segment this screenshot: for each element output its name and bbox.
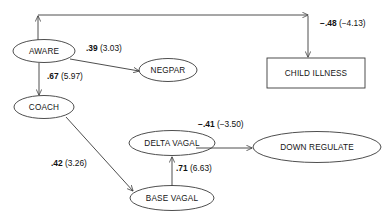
coef-delta-vagal-to-down-regulate: −.41 (−3.50) [198,119,244,129]
coef-t-value: (6.63) [190,163,212,173]
coef-aware-to-coach: .67 (5.97) [47,71,83,81]
node-child-illness-shape [267,58,365,88]
coef-t-value: (−4.13) [339,18,366,28]
coef-aware-to-negpar: .39 (3.03) [86,43,122,53]
node-coach-shape [14,96,74,119]
coef-t-value: (−3.50) [217,119,244,129]
path-coach-to-base-vagal [66,117,133,191]
node-base-vagal-shape [130,186,214,211]
coef-coach-to-base-vagal: .42 (3.26) [51,158,87,168]
coef-estimate: −.41 [198,119,215,129]
coef-estimate: .71 [176,163,188,173]
node-negpar-shape [139,59,197,82]
coef-t-value: (5.97) [61,71,83,81]
node-aware-shape [13,40,75,63]
coef-estimate: −.48 [320,18,337,28]
coef-estimate: .67 [47,71,59,81]
coef-aware-to-child-illness: −.48 (−4.13) [320,18,366,28]
coef-estimate: .42 [51,158,63,168]
path-aware-to-negpar [70,59,139,71]
path-model-canvas [0,0,389,224]
coef-t-value: (3.26) [65,158,87,168]
node-down-regulate-shape [253,132,381,163]
coef-estimate: .39 [86,43,98,53]
coef-base-vagal-to-delta-vagal: .71 (6.63) [176,163,212,173]
node-delta-vagal-shape [129,131,215,156]
coef-t-value: (3.03) [100,43,122,53]
path-diagram: AWARE COACH NEGPAR CHILD ILLNESS DELTA V… [0,0,389,224]
